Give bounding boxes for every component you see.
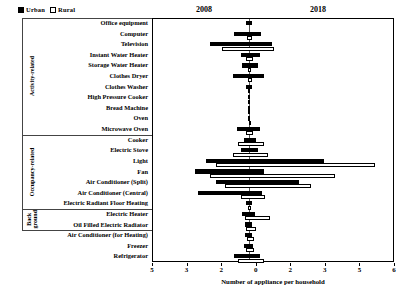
category-label: Freezer xyxy=(127,243,148,249)
bar-rural xyxy=(249,121,251,125)
bar-rural xyxy=(248,78,252,82)
bar-rural xyxy=(246,248,254,252)
legend-label-rural: Rural xyxy=(58,6,75,13)
category-label: Microwave Oven xyxy=(101,126,148,132)
bar-rural xyxy=(210,174,335,178)
group-bracket: Back ground xyxy=(26,209,38,230)
axis-tick-label: 5 xyxy=(358,266,362,274)
category-label: Computer xyxy=(120,31,148,37)
axis-tick-label: 3 xyxy=(185,266,189,274)
category-label-column: Office equipmentComputerTelevisionInstan… xyxy=(0,18,152,262)
category-label: Office equipment xyxy=(101,20,148,26)
category-label: Oil Filled Electric Radiator xyxy=(73,222,148,228)
x-axis-title: Number of appliance per household xyxy=(152,278,394,285)
bar-rural xyxy=(248,206,251,210)
hollow-square-icon xyxy=(50,7,56,13)
group-label: Activity-related xyxy=(29,56,35,96)
bar-rural xyxy=(247,36,252,40)
legend-label-urban: Urban xyxy=(26,6,45,13)
bar-rural xyxy=(248,68,251,72)
group-divider xyxy=(22,209,152,210)
category-label: Storage Water Heater xyxy=(88,62,148,68)
bar-rural xyxy=(222,47,274,51)
axis-tick-label: 2 xyxy=(219,266,223,274)
group-divider xyxy=(22,135,152,136)
appliance-ownership-chart: Urban Rural 2008 2018 Office equipmentCo… xyxy=(0,0,399,297)
category-label: Bread Machine xyxy=(106,105,148,111)
group-bracket: Activity-related xyxy=(26,18,38,135)
group-bracket: Occupancy-related xyxy=(26,135,38,209)
group-divider-vertical xyxy=(22,18,23,135)
category-label: High Pressure Cooker xyxy=(88,94,148,100)
bar-rural xyxy=(225,184,311,188)
bar-rural xyxy=(245,216,270,220)
bar-rural xyxy=(247,237,255,241)
category-label: Air Conditioner (for Heating) xyxy=(67,232,148,238)
category-label: Light xyxy=(133,158,148,164)
bar-rural xyxy=(246,57,253,61)
group-divider-vertical xyxy=(22,135,23,209)
category-label: Air Conditioner (Split) xyxy=(86,179,148,185)
category-label: Oven xyxy=(133,115,148,121)
header-year-2018: 2018 xyxy=(310,5,326,14)
filled-square-icon xyxy=(18,7,24,13)
plot-area xyxy=(152,18,394,262)
category-label: Electric Radiant Floor Heating xyxy=(63,200,148,206)
bar-rural xyxy=(248,100,250,104)
category-label: Electric Heater xyxy=(106,211,148,217)
group-divider xyxy=(22,230,152,231)
bar-rural xyxy=(238,142,263,146)
group-divider-vertical xyxy=(22,209,23,230)
axis-tick-label: 3 xyxy=(323,266,327,274)
group-divider xyxy=(22,18,152,19)
group-label: Back ground xyxy=(26,210,39,229)
bar-rural xyxy=(248,89,250,93)
bar-rural xyxy=(248,110,250,114)
axis-tick-label: 6 xyxy=(392,266,396,274)
category-label: Clothes Washer xyxy=(105,84,148,90)
bar-rural xyxy=(216,163,375,167)
bar-rural xyxy=(233,153,268,157)
bar-rural xyxy=(238,259,263,263)
legend-item-urban: Urban xyxy=(18,6,45,13)
chart-legend: Urban Rural xyxy=(18,6,75,13)
axis-tick-label: 2 xyxy=(289,266,293,274)
category-label: Television xyxy=(121,41,148,47)
category-label: Cooker xyxy=(128,137,148,143)
header-year-2008: 2008 xyxy=(196,5,212,14)
category-label: Instant Water Heater xyxy=(90,52,148,58)
bar-rural xyxy=(246,227,255,231)
category-label: Air Conditioner (Central) xyxy=(78,190,148,196)
bar-urban xyxy=(246,21,252,25)
group-label: Occupancy-related xyxy=(29,148,35,197)
bar-rural xyxy=(241,195,265,199)
legend-item-rural: Rural xyxy=(50,6,75,13)
category-label: Fan xyxy=(137,169,148,175)
bar-rural xyxy=(246,131,253,135)
category-label: Electric Stove xyxy=(110,147,148,153)
category-label: Refrigerator xyxy=(114,253,148,259)
axis-tick-label: 5 xyxy=(150,266,154,274)
axis-tick-label: 0 xyxy=(254,266,258,274)
category-label: Clothes Dryer xyxy=(109,73,148,79)
